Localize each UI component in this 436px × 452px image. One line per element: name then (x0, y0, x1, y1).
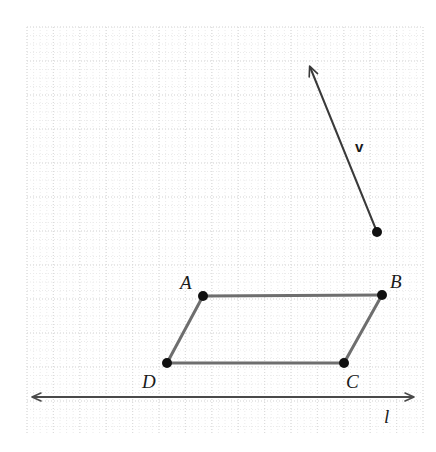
vertex-point-c (339, 358, 349, 368)
vertex-label-c: C (346, 372, 359, 391)
line-label-l: l (384, 407, 389, 426)
vertex-label-b: B (390, 272, 402, 291)
vertex-point-d (162, 358, 172, 368)
parallelogram-edge-bc (344, 295, 382, 363)
vector-v-shaft (310, 67, 377, 232)
parallelogram-edge-da (167, 296, 203, 363)
parallelogram-edges (167, 295, 382, 363)
vertex-label-a: A (180, 273, 192, 292)
parallelogram-edge-ab (203, 295, 382, 296)
vertex-point-a (198, 291, 208, 301)
vertex-label-d: D (142, 372, 156, 391)
vector-label-v: v (355, 139, 363, 154)
vertex-point-b (377, 290, 387, 300)
vector-v-tail-point (372, 227, 382, 237)
parallelogram-vertices (162, 290, 387, 368)
vector-v (310, 67, 382, 237)
geometry-layer (0, 0, 436, 452)
geometry-figure: A B C D v l (0, 0, 436, 452)
